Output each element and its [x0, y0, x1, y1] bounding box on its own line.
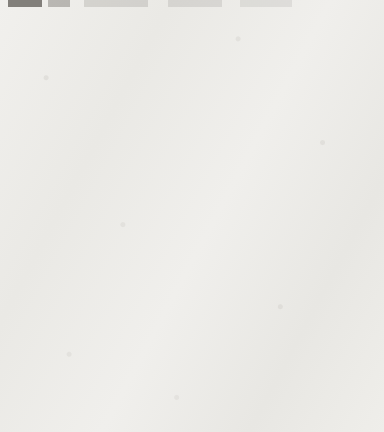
chart-plot — [0, 0, 384, 432]
